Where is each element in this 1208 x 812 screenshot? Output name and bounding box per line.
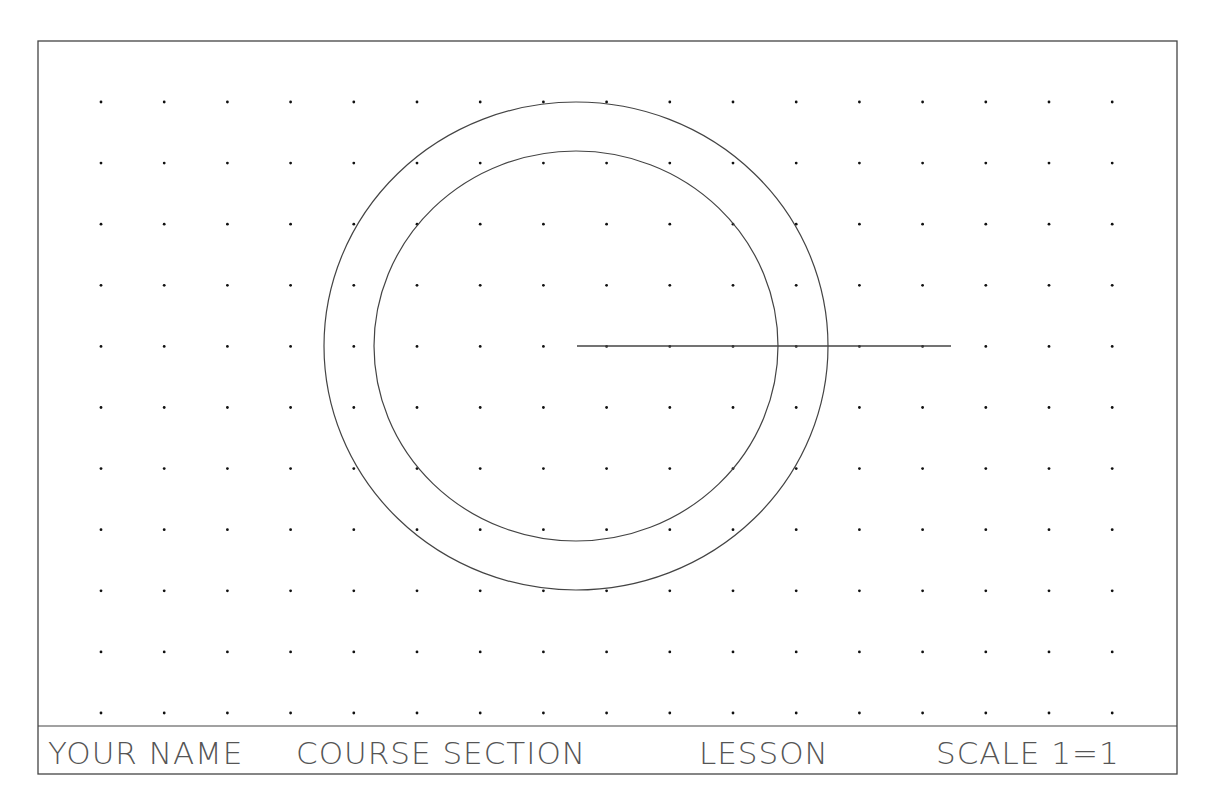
grid-dot — [858, 223, 861, 226]
grid-dot — [163, 651, 166, 654]
grid-dot — [1111, 162, 1114, 165]
grid-dot — [605, 467, 608, 470]
grid-dot — [1048, 589, 1051, 592]
grid-dot — [668, 162, 671, 165]
grid-dot — [163, 162, 166, 165]
title-scale: SCALE 1=1 — [936, 735, 1120, 771]
grid-dot — [542, 467, 545, 470]
grid-dot — [352, 528, 355, 531]
grid-dot — [542, 651, 545, 654]
grid-dot — [163, 406, 166, 409]
grid-dot — [1111, 589, 1114, 592]
grid-dot — [984, 712, 987, 715]
grid-dot — [732, 284, 735, 287]
grid-dot — [100, 162, 103, 165]
grid-dot — [984, 589, 987, 592]
grid-dot — [668, 467, 671, 470]
grid-dot — [479, 223, 482, 226]
grid-dot — [163, 467, 166, 470]
grid-dot — [479, 712, 482, 715]
grid-dot — [289, 101, 292, 104]
grid-dot — [1111, 223, 1114, 226]
grid-dot — [352, 589, 355, 592]
grid-dot — [668, 712, 671, 715]
grid-dot — [984, 651, 987, 654]
grid-dot — [668, 528, 671, 531]
grid-dot — [858, 406, 861, 409]
grid-dot — [795, 284, 798, 287]
grid-dot — [542, 712, 545, 715]
grid-dot — [289, 528, 292, 531]
grid-dot — [416, 406, 419, 409]
grid-dot — [1048, 467, 1051, 470]
grid-dot — [795, 528, 798, 531]
grid-dot — [416, 284, 419, 287]
grid-dot — [668, 589, 671, 592]
grid-dot — [668, 406, 671, 409]
grid-dot — [1048, 284, 1051, 287]
grid-dot — [921, 467, 924, 470]
grid-dot — [416, 101, 419, 104]
grid-dot — [226, 467, 229, 470]
grid-dot — [605, 284, 608, 287]
grid-dot — [542, 284, 545, 287]
grid-dot — [732, 406, 735, 409]
grid-dot — [542, 406, 545, 409]
grid-dot — [732, 589, 735, 592]
grid-dot — [416, 712, 419, 715]
grid-dot — [289, 345, 292, 348]
grid-dot — [605, 651, 608, 654]
grid-dot — [479, 284, 482, 287]
grid-dot — [226, 345, 229, 348]
grid-dot — [1048, 528, 1051, 531]
grid-dot — [226, 589, 229, 592]
grid-dot — [795, 467, 798, 470]
grid-dot — [100, 712, 103, 715]
grid-dot — [479, 162, 482, 165]
grid-dot — [921, 162, 924, 165]
grid-dot — [1048, 223, 1051, 226]
grid-dot — [668, 651, 671, 654]
grid-dot — [479, 345, 482, 348]
grid-dot — [921, 223, 924, 226]
grid-dot — [542, 345, 545, 348]
grid-dot — [858, 162, 861, 165]
grid-dot — [100, 651, 103, 654]
grid-dot — [289, 651, 292, 654]
grid-dot — [1048, 712, 1051, 715]
grid-dot — [668, 223, 671, 226]
grid-dot — [984, 406, 987, 409]
grid-dot — [795, 651, 798, 654]
grid-dot — [921, 712, 924, 715]
grid-dot — [984, 345, 987, 348]
grid-dot — [416, 345, 419, 348]
grid-dot — [984, 284, 987, 287]
grid-dot — [226, 284, 229, 287]
grid-dot — [352, 345, 355, 348]
grid-dot — [416, 651, 419, 654]
grid-dot — [921, 651, 924, 654]
grid-dot — [289, 406, 292, 409]
grid-dot — [416, 162, 419, 165]
grid-dot — [289, 223, 292, 226]
grid-dot — [921, 589, 924, 592]
grid-dot — [163, 528, 166, 531]
grid-dot — [795, 162, 798, 165]
grid-dot — [1048, 162, 1051, 165]
snap-grid-dots — [100, 101, 1114, 715]
grid-dot — [1111, 528, 1114, 531]
grid-dot — [732, 162, 735, 165]
grid-dot — [479, 589, 482, 592]
grid-dot — [352, 284, 355, 287]
grid-dot — [1048, 406, 1051, 409]
grid-dot — [1111, 467, 1114, 470]
grid-dot — [352, 467, 355, 470]
grid-dot — [100, 223, 103, 226]
grid-dot — [858, 467, 861, 470]
grid-dot — [352, 162, 355, 165]
grid-dot — [479, 406, 482, 409]
grid-dot — [984, 101, 987, 104]
grid-dot — [1048, 651, 1051, 654]
grid-dot — [668, 284, 671, 287]
grid-dot — [605, 589, 608, 592]
